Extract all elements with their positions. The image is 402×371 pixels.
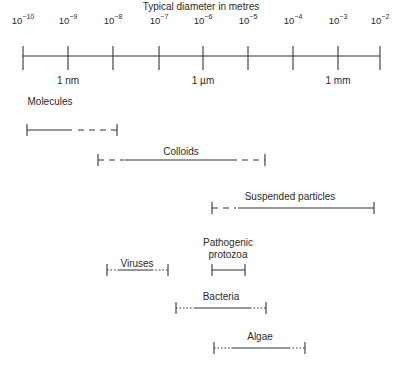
tick-label: 10−7 [150,13,169,26]
tick-label: 10−4 [284,13,303,26]
range-label: protozoa [209,249,248,260]
range-label: Suspended particles [245,191,336,202]
unit-label: 1 nm [57,75,79,86]
tick-label: 10−5 [239,13,258,26]
range-label: Bacteria [203,291,240,302]
tick-label: 10−9 [59,13,78,26]
axis-title: Typical diameter in metres [143,1,260,12]
range-label: Pathogenic [203,237,253,248]
range-label: Molecules [27,96,72,107]
range-label: Viruses [120,258,153,269]
tick-label: 10−10 [12,13,34,26]
unit-label: 1 µm [192,75,214,86]
range-label: Algae [247,331,273,342]
tick-label: 10−6 [194,13,213,26]
tick-label: 10−2 [371,13,390,26]
tick-label: 10−3 [329,13,348,26]
tick-label: 10−8 [104,13,123,26]
size-range-diagram [0,0,402,371]
unit-label: 1 mm [326,75,351,86]
range-label: Colloids [163,146,199,157]
